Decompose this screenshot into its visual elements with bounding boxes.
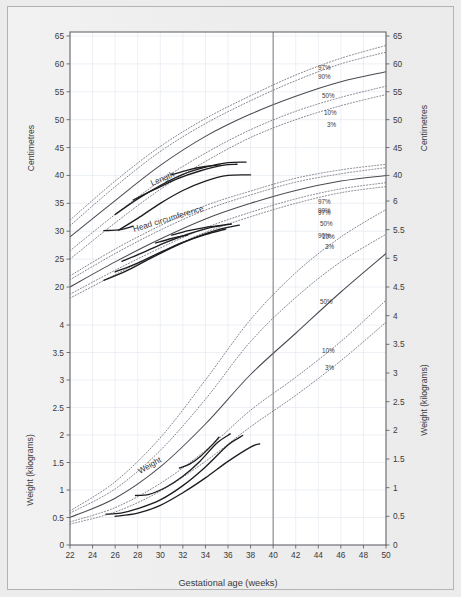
svg-text:28: 28 [133,550,143,560]
svg-text:97%: 97% [318,198,331,205]
svg-text:40: 40 [55,170,65,180]
x-axis-ticks: 222426283032343638404244464850 [65,545,391,560]
svg-text:0.5: 0.5 [52,513,64,523]
svg-text:3: 3 [59,375,64,385]
svg-text:2.5: 2.5 [52,403,64,413]
svg-text:5.5: 5.5 [393,225,405,235]
left-axis-title-centimetres: Centimetres [26,125,36,171]
svg-text:2.5: 2.5 [393,397,405,407]
left-axis-title-weight: Weight (kilograms) [25,434,35,506]
svg-text:38: 38 [246,550,256,560]
svg-text:42: 42 [291,550,301,560]
svg-text:97%: 97% [318,209,331,216]
svg-text:3%: 3% [325,364,335,371]
svg-text:30: 30 [55,226,65,236]
svg-text:90%: 90% [318,73,331,80]
svg-text:26: 26 [111,550,121,560]
svg-text:48: 48 [359,550,369,560]
svg-text:65: 65 [393,31,403,41]
svg-text:50: 50 [55,115,65,125]
growth-chart: 222426283032343638404244464850 656055504… [0,0,461,597]
svg-text:60: 60 [55,59,65,69]
svg-text:24: 24 [88,550,98,560]
svg-text:0: 0 [393,540,398,550]
svg-text:3.5: 3.5 [52,348,64,358]
svg-text:3%: 3% [327,121,337,128]
left-axis-ticks: 6560555045403530252043.532.521.510.50 [52,31,70,550]
svg-text:44: 44 [314,550,324,560]
svg-text:34: 34 [201,550,211,560]
svg-text:1.5: 1.5 [393,454,405,464]
svg-text:50%: 50% [322,92,335,99]
x-axis-title: Gestational age (weeks) [178,578,277,588]
svg-text:3%: 3% [325,243,335,250]
svg-text:1.5: 1.5 [52,458,64,468]
chart-frame: 222426283032343638404244464850 656055504… [0,0,461,597]
svg-text:36: 36 [223,550,233,560]
svg-text:35: 35 [55,198,65,208]
svg-text:50: 50 [393,115,403,125]
svg-text:65: 65 [55,31,65,41]
svg-text:55: 55 [55,87,65,97]
svg-text:22: 22 [65,550,75,560]
svg-text:45: 45 [55,143,65,153]
svg-text:0: 0 [59,540,64,550]
svg-text:25: 25 [55,254,65,264]
svg-text:10%: 10% [324,109,337,116]
right-axis-title-centimetres: Centimetres [419,105,429,151]
svg-text:32: 32 [178,550,188,560]
svg-text:50%: 50% [320,220,333,227]
svg-text:10%: 10% [322,347,335,354]
svg-text:3.5: 3.5 [393,339,405,349]
svg-text:30: 30 [156,550,166,560]
svg-text:1: 1 [393,483,398,493]
svg-text:40: 40 [393,170,403,180]
svg-text:0.5: 0.5 [393,511,405,521]
svg-text:40: 40 [269,550,279,560]
right-axis-ticks: 65605550454065.554.543.532.521.510.50 [386,31,405,550]
svg-text:4: 4 [59,320,64,330]
svg-text:2: 2 [59,430,64,440]
svg-text:6: 6 [393,196,398,206]
svg-text:2: 2 [393,425,398,435]
svg-text:20: 20 [55,282,65,292]
svg-text:50%: 50% [320,298,333,305]
svg-text:4.5: 4.5 [393,282,405,292]
svg-text:46: 46 [336,550,346,560]
svg-text:60: 60 [393,59,403,69]
svg-text:97%: 97% [318,64,331,71]
svg-text:55: 55 [393,87,403,97]
svg-text:50: 50 [381,550,391,560]
svg-text:90%: 90% [318,232,331,239]
svg-text:5: 5 [393,253,398,263]
svg-text:1: 1 [59,485,64,495]
right-axis-title-weight: Weight (kilograms) [419,364,429,436]
svg-text:3: 3 [393,368,398,378]
svg-text:4: 4 [393,311,398,321]
svg-text:45: 45 [393,143,403,153]
